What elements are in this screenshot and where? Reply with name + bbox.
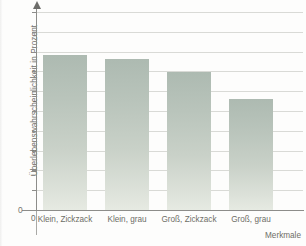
gridline bbox=[37, 52, 303, 53]
y-axis-origin-label: 0 bbox=[18, 205, 23, 215]
x-axis-category-label: Groß, grau bbox=[211, 215, 291, 224]
bar bbox=[229, 99, 273, 210]
y-axis-tick bbox=[32, 190, 37, 191]
bar bbox=[105, 59, 149, 210]
gridline bbox=[37, 32, 303, 33]
y-axis-tick bbox=[32, 12, 37, 13]
y-axis-tick bbox=[32, 71, 37, 72]
x-axis-title: Merkmale bbox=[265, 231, 301, 240]
bar bbox=[43, 55, 87, 210]
y-axis-tick bbox=[32, 131, 37, 132]
y-axis-arrow-icon bbox=[33, 1, 41, 9]
plot-area: 102030405060708090100 bbox=[37, 12, 303, 210]
y-axis-tick bbox=[32, 210, 37, 211]
bar-chart-figure: Überlebenswahrscheinlichkeit in Prozent … bbox=[0, 0, 306, 246]
y-axis-tick bbox=[32, 111, 37, 112]
bar bbox=[167, 72, 211, 210]
x-axis-line bbox=[22, 210, 304, 211]
y-axis-tick bbox=[32, 151, 37, 152]
gridline bbox=[37, 12, 303, 13]
y-axis-tick bbox=[32, 91, 37, 92]
y-axis-tick bbox=[32, 52, 37, 53]
page-edge-shadow bbox=[0, 0, 3, 246]
y-axis-tick bbox=[32, 32, 37, 33]
y-axis-tick bbox=[32, 170, 37, 171]
